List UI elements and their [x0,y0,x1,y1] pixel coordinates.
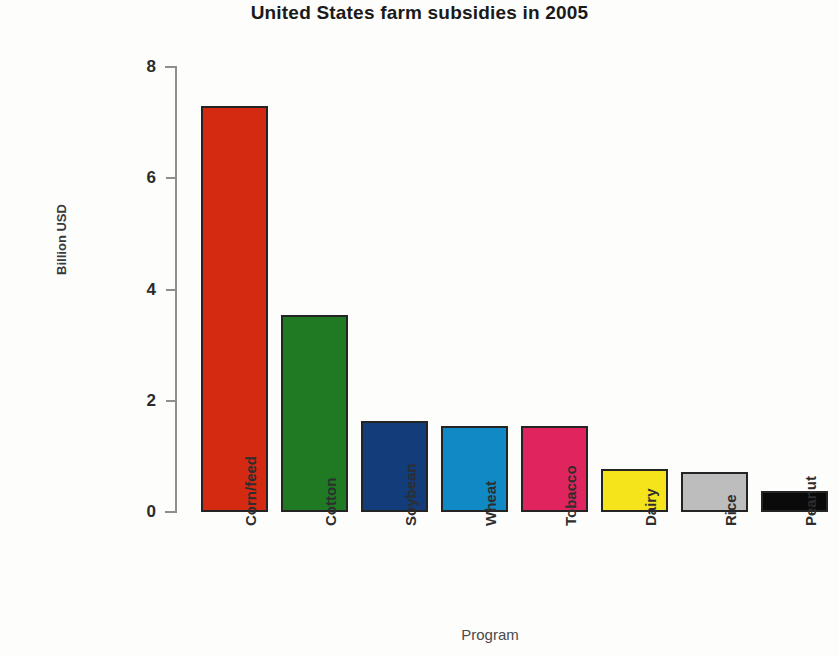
plot-area: 02468 Corn/feedCottonSoybeanWheatTobacco… [0,0,839,657]
x-axis-tick-label: Soybean [402,463,419,526]
y-axis-tick [166,177,177,179]
x-axis-tick-label: Peanut [802,476,819,526]
y-axis-tick [166,289,177,291]
x-axis-tick-label: Tobacco [562,465,579,526]
x-axis-tick-label: Cotton [322,478,339,526]
y-axis-tick [166,400,177,402]
bar-corn-feed [201,106,268,512]
y-axis-cap-top [165,66,177,68]
y-axis-tick-label: 8 [120,57,156,77]
y-axis-cap-bottom [165,511,177,513]
x-axis-label: Program [140,626,839,643]
x-axis-tick-label: Wheat [482,481,499,526]
y-axis-tick-label: 2 [120,391,156,411]
y-axis-tick-label: 0 [120,502,156,522]
x-axis-tick-label: Corn/feed [242,456,259,526]
x-axis-tick-label: Rice [722,494,739,526]
chart-figure: United States farm subsidies in 2005 Bil… [0,0,839,657]
x-axis-tick-label: Dairy [642,488,659,526]
y-axis-tick-label: 6 [120,168,156,188]
y-axis-tick-label: 4 [120,280,156,300]
